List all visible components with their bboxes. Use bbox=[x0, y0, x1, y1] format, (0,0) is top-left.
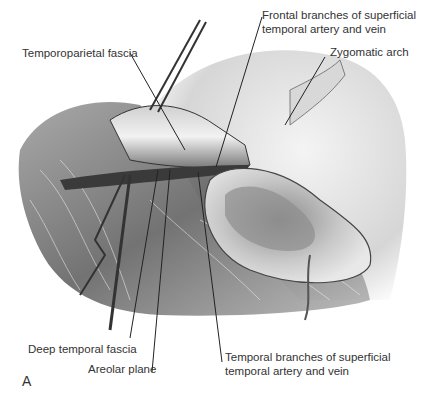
label-frontal-branches-line2: temporal artery and vein bbox=[262, 22, 416, 36]
label-temporal-branches-line2: temporal artery and vein bbox=[225, 364, 391, 378]
label-zygomatic-arch: Zygomatic arch bbox=[330, 45, 409, 59]
label-temporal-branches: Temporal branches of superficial tempora… bbox=[225, 350, 391, 378]
label-temporal-branches-line1: Temporal branches of superficial bbox=[225, 350, 391, 364]
label-deep-temporal-fascia: Deep temporal fascia bbox=[28, 342, 137, 356]
panel-letter: A bbox=[22, 373, 31, 389]
label-frontal-branches-line1: Frontal branches of superficial bbox=[262, 8, 416, 22]
label-frontal-branches: Frontal branches of superficial temporal… bbox=[262, 8, 416, 36]
label-temporoparietal-fascia: Temporoparietal fascia bbox=[22, 46, 138, 60]
label-areolar-plane: Areolar plane bbox=[88, 362, 156, 376]
